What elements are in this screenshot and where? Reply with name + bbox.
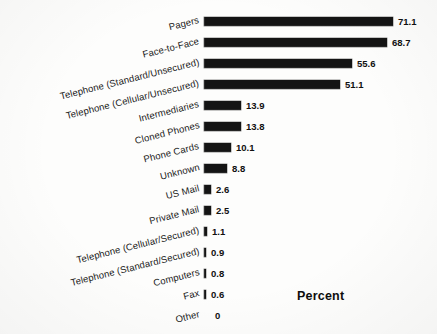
bar-value-label: 2.5: [216, 205, 229, 216]
bar: [204, 17, 393, 26]
bar-value-label: 51.1: [345, 79, 364, 90]
bar-value-label: 0: [215, 310, 220, 321]
bar-value-label: 0.8: [211, 268, 224, 279]
chart-row: Fax 0.6: [0, 284, 437, 305]
bar-value-label: 0.9: [211, 247, 224, 258]
chart-row: Telephone (Cellular/Unsecured) 51.1: [0, 74, 437, 95]
bar: [204, 206, 211, 215]
chart-row: Pagers 71.1: [0, 11, 437, 32]
bar-group: 13.8: [204, 121, 265, 132]
bar: [204, 122, 241, 131]
bar-group: 71.1: [204, 16, 417, 27]
chart-row: Cloned Phones 13.8: [0, 116, 437, 137]
category-label: Other: [174, 308, 200, 325]
bar-value-label: 55.6: [357, 58, 376, 69]
chart-row: Unknown 8.8: [0, 158, 437, 179]
bar-group: 68.7: [204, 37, 411, 48]
bar-group: 51.1: [204, 79, 364, 90]
chart-row: Other 0: [0, 305, 437, 326]
bar-group: 2.6: [204, 184, 229, 195]
bar: [204, 248, 206, 257]
bar-group: 0: [204, 310, 220, 321]
bar-value-label: 10.1: [236, 142, 255, 153]
chart-row: Computers 0.8: [0, 263, 437, 284]
bar-value-label: 0.6: [211, 289, 224, 300]
chart-row: Telephone (Cellular/Secured) 1.1: [0, 221, 437, 242]
bar: [204, 59, 352, 68]
bar-group: 0.8: [204, 268, 224, 279]
bar-value-label: 8.8: [232, 163, 245, 174]
bar-value-label: 13.9: [246, 100, 265, 111]
bar-chart: Pagers 71.1 Face-to-Face 68.7 Telephone …: [0, 0, 437, 334]
bar: [204, 143, 231, 152]
chart-row: Telephone (Standard/Unsecured) 55.6: [0, 53, 437, 74]
chart-row: Phone Cards 10.1: [0, 137, 437, 158]
bar-group: 1.1: [204, 226, 225, 237]
chart-row: Face-to-Face 68.7: [0, 32, 437, 53]
bar-value-label: 13.8: [246, 121, 265, 132]
bar-value-label: 68.7: [392, 37, 411, 48]
bar: [204, 185, 211, 194]
bar-group: 8.8: [204, 163, 245, 174]
chart-row: Telephone (Standard/Secured) 0.9: [0, 242, 437, 263]
bar-value-label: 2.6: [216, 184, 229, 195]
bar-group: 0.6: [204, 289, 224, 300]
bar-group: 2.5: [204, 205, 229, 216]
x-axis-title: Percent: [297, 289, 344, 303]
category-label: US Mail: [165, 182, 201, 201]
bar-group: 0.9: [204, 247, 224, 258]
bar-value-label: 71.1: [398, 16, 417, 27]
bar: [204, 269, 206, 278]
chart-row: Private Mail 2.5: [0, 200, 437, 221]
bar-value-label: 1.1: [212, 226, 225, 237]
bar: [204, 101, 241, 110]
bar-group: 13.9: [204, 100, 265, 111]
bar-group: 10.1: [204, 142, 255, 153]
category-label: Fax: [182, 287, 200, 302]
bar: [204, 227, 207, 236]
bar: [204, 80, 340, 89]
category-label: Pagers: [168, 14, 200, 32]
bar-group: 55.6: [204, 58, 376, 69]
bar: [204, 290, 206, 299]
chart-row: US Mail 2.6: [0, 179, 437, 200]
chart-row: Intermediaries 13.9: [0, 95, 437, 116]
bar: [204, 164, 227, 173]
bar: [204, 38, 387, 47]
